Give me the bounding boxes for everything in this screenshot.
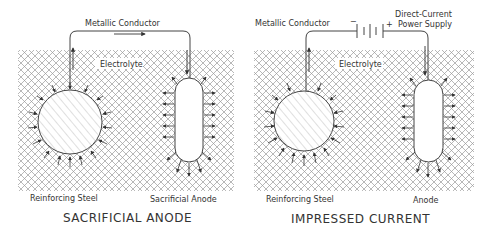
power-supply-label-line2: Power Supply <box>398 20 452 29</box>
panel-sacrificial-anode: Metallic Conductor Electrolyte <box>18 19 234 225</box>
panel-title: IMPRESSED CURRENT <box>291 212 430 226</box>
anode <box>414 80 443 162</box>
conductor-label: Metallic Conductor <box>255 19 331 28</box>
reinforcing-steel-label: Reinforcing Steel <box>30 194 98 203</box>
electrolyte-label: Electrolyte <box>339 60 382 69</box>
power-supply-label-line1: Direct-Current <box>395 10 452 19</box>
cathodic-protection-diagram: Metallic Conductor Electrolyte <box>0 0 495 236</box>
anode-label: Anode <box>413 196 439 205</box>
panel-title: SACRIFICIAL ANODE <box>63 211 192 225</box>
negative-terminal: − <box>350 17 357 26</box>
electrolyte-label: Electrolyte <box>100 60 143 69</box>
anode-label: Sacrificial Anode <box>150 195 217 204</box>
panel-impressed-current: − + Metallic Conductor Direct-Current Po… <box>254 10 474 226</box>
reinforcing-steel-label: Reinforcing Steel <box>266 195 334 204</box>
sacrificial-anode <box>175 78 203 162</box>
conductor-label: Metallic Conductor <box>85 19 161 28</box>
battery-icon <box>357 24 383 38</box>
positive-terminal: + <box>386 20 393 29</box>
